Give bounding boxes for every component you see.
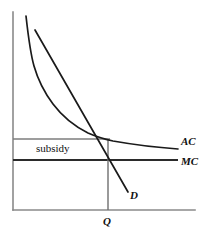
demand-label: D [130, 190, 138, 201]
average-cost-label: AC [181, 136, 196, 147]
marginal-cost-label: MC [181, 156, 198, 167]
average-cost-curve [26, 16, 178, 149]
quantity-axis-label: Q [103, 216, 111, 227]
economics-diagram: subsidy AC MC D Q [0, 0, 213, 241]
diagram-canvas [0, 0, 213, 241]
subsidy-label: subsidy [36, 143, 70, 154]
demand-curve [35, 30, 128, 192]
